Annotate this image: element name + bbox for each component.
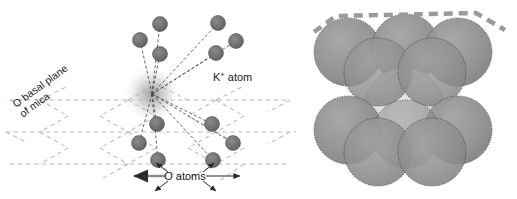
oxygen-sphere — [398, 118, 466, 186]
upper-oxygen-atoms — [133, 16, 244, 62]
oxygen-atom — [132, 136, 147, 151]
oxygen-atom — [133, 33, 148, 48]
oxygen-atom — [229, 34, 244, 49]
svg-text:K+ atom: K+ atom — [213, 70, 252, 83]
oxygen-atom — [209, 46, 224, 61]
lower-oxygen-atoms — [132, 117, 241, 168]
panel-ball-and-stick: O atoms K+ atom O basal plane of mica — [0, 0, 300, 199]
basal-plane-callout: O basal plane of mica — [10, 62, 77, 120]
oxygen-atom — [151, 153, 166, 168]
oxygen-atom — [153, 17, 168, 32]
o-atoms-label: O atoms — [164, 170, 206, 182]
k-atom-suffix: atom — [225, 71, 253, 83]
oxygen-sphere — [398, 38, 466, 106]
right-panel-svg — [300, 0, 517, 199]
figure-root: O atoms K+ atom O basal plane of mica — [0, 0, 517, 199]
k-atom-callout: K+ atom — [213, 70, 252, 83]
left-panel-svg: O atoms K+ atom O basal plane of mica — [0, 0, 300, 199]
o-atoms-callout: O atoms — [134, 163, 240, 191]
oxygen-atom — [226, 136, 241, 151]
oxygen-atom — [206, 153, 221, 168]
panel-space-filling — [300, 0, 517, 199]
oxygen-atom — [153, 47, 168, 62]
oxygen-atom — [205, 117, 220, 132]
sphere-row-front — [314, 96, 492, 186]
oxygen-atom — [150, 117, 165, 132]
oxygen-atom — [211, 16, 226, 31]
